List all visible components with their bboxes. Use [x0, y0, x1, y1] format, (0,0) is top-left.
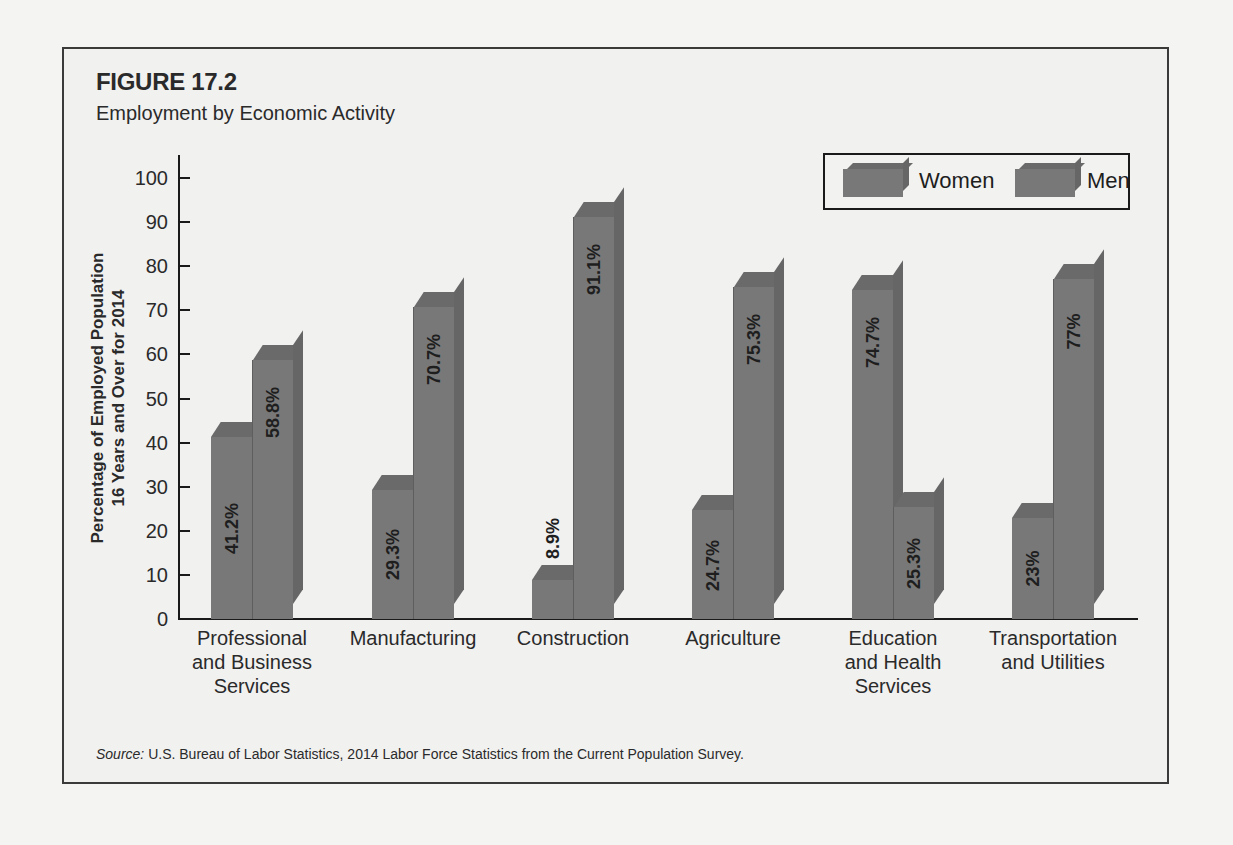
bar-value-label: 25.3% [904, 538, 925, 589]
bar-side-face [774, 257, 784, 604]
x-category-label-line: Services [172, 674, 332, 698]
bar-value-label: 75.3% [744, 314, 765, 365]
bar-side-face [454, 277, 464, 604]
x-category-label: Professionaland BusinessServices [172, 626, 332, 698]
bar-men: 75.3% [733, 287, 774, 619]
y-tick-mark [178, 530, 190, 532]
x-category-label: Transportationand Utilities [973, 626, 1133, 674]
bar-side-face [614, 187, 624, 604]
bar-women: 24.7% [692, 510, 733, 619]
source-prefix: Source: [96, 746, 144, 762]
x-category-label: Agriculture [653, 626, 813, 650]
y-tick-mark [178, 221, 190, 223]
x-category-label-line: Professional [172, 626, 332, 650]
x-category-label-line: Agriculture [653, 626, 813, 650]
y-tick-label: 100 [108, 167, 168, 190]
y-axis-label-line1: Percentage of Employed Population [87, 253, 108, 544]
x-category-label-line: Construction [493, 626, 653, 650]
y-tick-mark [178, 398, 190, 400]
bar-women: 23% [1012, 518, 1053, 619]
x-category-label-line: Manufacturing [333, 626, 493, 650]
bar-women: 74.7% [852, 290, 893, 619]
legend: Women Men [823, 153, 1130, 210]
bar-value-label: 29.3% [382, 529, 403, 580]
legend-label-men: Men [1087, 168, 1130, 194]
y-tick-label: 0 [108, 608, 168, 631]
bar-women: 41.2% [211, 437, 252, 619]
legend-swatch-men [1015, 169, 1075, 197]
x-category-label-line: Services [813, 674, 973, 698]
y-tick-mark [178, 486, 190, 488]
bar-value-label: 41.2% [221, 503, 242, 554]
figure-number: FIGURE 17.2 [96, 68, 237, 96]
y-tick-mark [178, 442, 190, 444]
bar-side-face [934, 478, 944, 604]
bar-value-label: 24.7% [702, 539, 723, 590]
y-tick-mark [178, 618, 190, 620]
bar-value-label: 91.1% [584, 244, 605, 295]
chart-title: Employment by Economic Activity [96, 102, 395, 125]
y-tick-label: 60 [108, 343, 168, 366]
bar-men: 58.8% [252, 360, 293, 619]
x-axis-line [178, 618, 1138, 620]
x-category-label: Manufacturing [333, 626, 493, 650]
bar-value-label: 58.8% [263, 387, 284, 438]
legend-swatch-women [843, 169, 903, 197]
x-category-label-line: Transportation [973, 626, 1133, 650]
bar-women: 29.3% [372, 490, 413, 619]
x-category-label: Construction [493, 626, 653, 650]
bar-side-face [293, 330, 303, 604]
legend-label-women: Women [919, 168, 994, 194]
y-tick-label: 80 [108, 255, 168, 278]
bar-side-face [1094, 250, 1104, 604]
x-category-label-line: and Utilities [973, 650, 1133, 674]
bar-men: 70.7% [413, 307, 454, 619]
y-tick-label: 90 [108, 211, 168, 234]
y-tick-label: 20 [108, 519, 168, 542]
y-tick-mark [178, 265, 190, 267]
bar-value-label: 23% [1022, 551, 1043, 587]
y-tick-label: 10 [108, 563, 168, 586]
x-category-label: Educationand HealthServices [813, 626, 973, 698]
source-note: Source: U.S. Bureau of Labor Statistics,… [96, 746, 744, 762]
y-tick-label: 40 [108, 431, 168, 454]
bar-men: 25.3% [893, 507, 934, 619]
y-tick-mark [178, 574, 190, 576]
y-tick-label: 70 [108, 299, 168, 322]
bar-value-label: 8.9% [542, 518, 563, 559]
bar-women: 8.9% [532, 580, 573, 619]
y-tick-label: 50 [108, 387, 168, 410]
x-category-label-line: and Business [172, 650, 332, 674]
bar-value-label: 77% [1064, 314, 1085, 350]
bar-men: 77% [1053, 279, 1094, 619]
y-axis-line [178, 155, 180, 620]
y-tick-mark [178, 309, 190, 311]
x-category-label-line: and Health [813, 650, 973, 674]
bar-value-label: 74.7% [862, 317, 883, 368]
y-tick-label: 30 [108, 475, 168, 498]
y-tick-mark [178, 353, 190, 355]
y-tick-mark [178, 177, 190, 179]
bar-men: 91.1% [573, 217, 614, 619]
source-text: U.S. Bureau of Labor Statistics, 2014 La… [144, 746, 744, 762]
bar-value-label: 70.7% [424, 334, 445, 385]
x-category-label-line: Education [813, 626, 973, 650]
